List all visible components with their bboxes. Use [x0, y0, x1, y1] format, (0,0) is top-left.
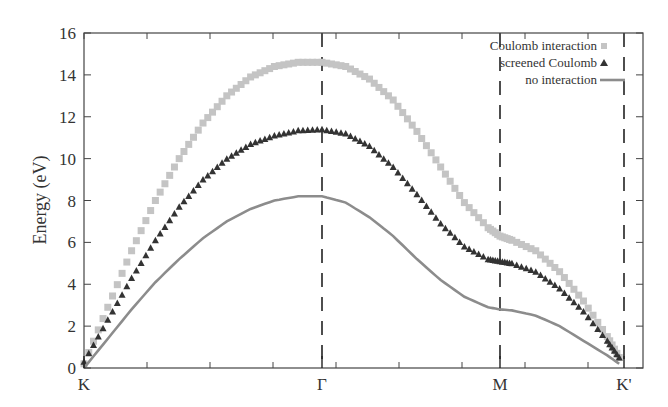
square-marker	[428, 149, 435, 156]
legend-triangle-icon	[600, 59, 608, 66]
triangle-marker	[95, 333, 102, 340]
triangle-marker	[157, 230, 164, 237]
y-tick-label: 4	[68, 275, 77, 294]
square-marker	[152, 197, 159, 204]
legend: Coulomb interactionscreened Coulombno in…	[490, 38, 625, 87]
triangle-marker	[119, 291, 126, 298]
square-marker	[585, 305, 592, 312]
y-tick-label: 6	[68, 233, 77, 252]
square-marker	[114, 281, 121, 288]
square-marker	[195, 127, 202, 134]
square-marker	[185, 141, 192, 148]
square-marker	[456, 192, 463, 199]
triangle-marker	[152, 237, 159, 244]
series-screened-coulomb	[81, 126, 623, 365]
triangle-marker	[147, 244, 154, 251]
series-layer	[81, 59, 623, 368]
y-tick-label: 0	[68, 359, 77, 378]
square-marker	[590, 312, 597, 319]
legend-label: Coulomb interaction	[490, 38, 598, 53]
square-marker	[442, 171, 449, 178]
triangle-marker	[133, 267, 140, 274]
legend-label: screened Coulomb	[500, 55, 597, 70]
triangle-marker	[142, 252, 149, 259]
square-marker	[580, 298, 587, 305]
square-marker	[128, 247, 135, 254]
square-marker	[176, 155, 183, 162]
y-tick-label: 8	[68, 192, 77, 211]
triangle-marker	[428, 208, 435, 215]
square-marker	[147, 207, 154, 214]
triangle-marker	[432, 214, 439, 221]
triangle-marker	[171, 210, 178, 217]
square-marker	[437, 164, 444, 171]
square-marker	[157, 189, 164, 196]
series-coulomb-interaction	[81, 59, 623, 368]
square-marker	[138, 227, 145, 234]
triangle-marker	[128, 274, 135, 281]
triangle-marker	[123, 283, 130, 290]
square-marker	[418, 135, 425, 142]
square-marker	[161, 180, 168, 187]
triangle-marker	[114, 300, 121, 307]
square-marker	[104, 304, 111, 311]
square-marker	[447, 178, 454, 185]
square-marker	[133, 237, 140, 244]
triangle-marker	[437, 220, 444, 227]
triangle-marker	[166, 217, 173, 224]
square-marker	[394, 103, 401, 110]
square-marker	[399, 109, 406, 116]
triangle-marker	[342, 130, 349, 137]
y-tick-label: 14	[59, 66, 77, 85]
x-tick-label: K'	[616, 375, 631, 394]
square-marker	[142, 217, 149, 224]
x-axis-ticks: KΓMK'	[78, 33, 632, 394]
square-marker	[432, 156, 439, 163]
triangle-marker	[161, 223, 168, 230]
x-tick-label: K	[78, 375, 91, 394]
square-marker	[123, 259, 130, 266]
square-marker	[180, 148, 187, 155]
square-marker	[404, 115, 411, 122]
triangle-marker	[423, 202, 430, 209]
y-tick-label: 12	[59, 108, 76, 127]
triangle-marker	[418, 197, 425, 204]
square-marker	[171, 164, 178, 171]
series-line	[84, 196, 619, 368]
y-tick-label: 2	[68, 317, 77, 336]
x-tick-label: M	[492, 375, 507, 394]
series-no-interaction	[84, 196, 619, 368]
y-tick-label: 10	[59, 150, 76, 169]
y-tick-label: 16	[59, 24, 76, 43]
x-tick-label: Γ	[317, 375, 327, 394]
square-marker	[166, 172, 173, 179]
legend-label: no interaction	[525, 72, 597, 87]
triangle-marker	[138, 259, 145, 266]
y-axis-label: Energy (eV)	[30, 155, 51, 244]
square-marker	[390, 97, 397, 104]
legend-square-icon	[601, 43, 607, 49]
square-marker	[409, 122, 416, 129]
square-marker	[190, 134, 197, 141]
square-marker	[451, 185, 458, 192]
square-marker	[119, 270, 126, 277]
square-marker	[423, 142, 430, 149]
square-marker	[109, 292, 116, 299]
band-structure-chart: 0246810121416 KΓMK' Energy (eV) Coulomb …	[0, 0, 668, 407]
square-marker	[413, 128, 420, 135]
